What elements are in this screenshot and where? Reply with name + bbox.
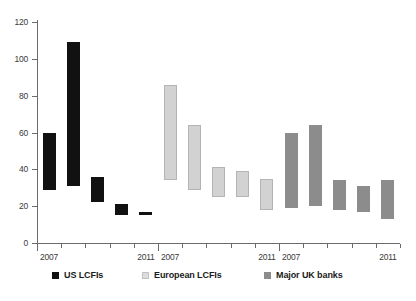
bar-major-uk-banks-2008 bbox=[309, 125, 322, 206]
legend-item-european-lcfis: European LCFIs bbox=[142, 270, 222, 280]
x-tick bbox=[327, 244, 328, 248]
legend-label-uk: Major UK banks bbox=[276, 270, 343, 280]
x-tick-label: 2007 bbox=[274, 252, 308, 262]
y-tick-label: 40 bbox=[2, 164, 28, 174]
legend-swatch-icon-us bbox=[52, 272, 59, 279]
legend-swatch-icon-eu bbox=[142, 272, 149, 279]
x-axis-group-separator-tick bbox=[158, 244, 159, 251]
bar-us-lcfis-2007 bbox=[43, 133, 56, 190]
bar-european-lcfis-2011 bbox=[260, 179, 273, 210]
y-tick bbox=[32, 206, 37, 207]
legend-label-eu: European LCFIs bbox=[154, 270, 222, 280]
x-tick bbox=[376, 244, 377, 248]
x-axis-group-separator-tick bbox=[279, 244, 280, 251]
x-tick bbox=[255, 244, 256, 248]
x-tick bbox=[231, 244, 232, 248]
y-tick-label: 80 bbox=[2, 91, 28, 101]
chart-container: 020406080100120 200720112007201120072011… bbox=[0, 0, 416, 301]
x-tick bbox=[134, 244, 135, 248]
bar-us-lcfis-2009 bbox=[91, 177, 104, 203]
x-tick bbox=[182, 244, 183, 248]
x-tick-label: 2011 bbox=[371, 252, 405, 262]
y-tick-label: 120 bbox=[2, 17, 28, 27]
y-tick bbox=[32, 59, 37, 60]
legend-swatch-icon-uk bbox=[264, 272, 271, 279]
x-tick bbox=[85, 244, 86, 248]
bar-major-uk-banks-2011 bbox=[381, 180, 394, 219]
x-tick bbox=[400, 244, 401, 248]
bar-european-lcfis-2009 bbox=[212, 167, 225, 196]
x-tick bbox=[110, 244, 111, 248]
x-tick-label: 2007 bbox=[32, 252, 66, 262]
bar-european-lcfis-2010 bbox=[236, 171, 249, 197]
legend-item-major-uk-banks: Major UK banks bbox=[264, 270, 343, 280]
y-tick bbox=[32, 169, 37, 170]
x-axis-group-separator-tick bbox=[37, 244, 38, 251]
x-tick bbox=[206, 244, 207, 248]
x-tick bbox=[352, 244, 353, 248]
legend-item-us-lcfis: US LCFIs bbox=[52, 270, 103, 280]
y-tick-label: 60 bbox=[2, 128, 28, 138]
bar-major-uk-banks-2009 bbox=[333, 180, 346, 209]
y-tick bbox=[32, 22, 37, 23]
y-tick-label: 0 bbox=[2, 238, 28, 248]
bar-us-lcfis-2011 bbox=[139, 212, 152, 216]
bar-us-lcfis-2008 bbox=[67, 42, 80, 186]
plot-area: 020406080100120 200720112007201120072011 bbox=[0, 0, 416, 301]
chart-legend: US LCFIs European LCFIs Major UK banks bbox=[0, 270, 416, 290]
x-tick bbox=[303, 244, 304, 248]
y-axis-line bbox=[37, 20, 38, 244]
y-tick bbox=[32, 96, 37, 97]
x-tick-label: 2007 bbox=[153, 252, 187, 262]
bar-major-uk-banks-2010 bbox=[357, 186, 370, 212]
x-axis-line bbox=[37, 243, 400, 244]
x-tick bbox=[61, 244, 62, 248]
y-tick-label: 20 bbox=[2, 201, 28, 211]
bar-european-lcfis-2008 bbox=[188, 125, 201, 189]
legend-label-us: US LCFIs bbox=[64, 270, 103, 280]
bar-major-uk-banks-2007 bbox=[285, 133, 298, 209]
y-tick-label: 100 bbox=[2, 54, 28, 64]
bar-european-lcfis-2007 bbox=[164, 85, 177, 181]
bar-us-lcfis-2010 bbox=[115, 204, 128, 215]
y-tick bbox=[32, 133, 37, 134]
